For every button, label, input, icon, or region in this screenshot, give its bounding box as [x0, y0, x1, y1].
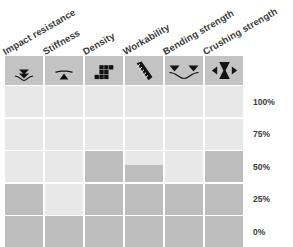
- axis-tick-50pct: 50%: [253, 163, 270, 172]
- cell-fill: [85, 184, 123, 215]
- grid-cell: [5, 151, 43, 182]
- cell-fill: [5, 216, 43, 247]
- grid-cell: [125, 119, 163, 150]
- axis-tick-100pct: 100%: [253, 98, 275, 107]
- grid-cell: [205, 119, 243, 150]
- grid-cell: [85, 119, 123, 150]
- icon-cell-impact-resistance: [5, 56, 43, 85]
- grid-cell: [5, 86, 43, 117]
- grid-cell: [165, 151, 203, 182]
- compression-hourglass-icon: [211, 60, 238, 81]
- beam-fulcrum-icon: [54, 59, 74, 82]
- grid-cell: [85, 151, 123, 182]
- cell-fill: [125, 184, 163, 215]
- axis-tick-75pct: 75%: [253, 130, 270, 139]
- grid-cell: [5, 216, 43, 247]
- grid-cell: [85, 86, 123, 117]
- grid-cell: [45, 119, 83, 150]
- grid-column-density: [85, 86, 123, 246]
- axis-tick-25pct: 25%: [253, 195, 270, 204]
- stacked-blocks-icon: [94, 60, 115, 81]
- grid-cell: [85, 216, 123, 247]
- cell-fill: [165, 216, 203, 247]
- cell-fill: [205, 216, 243, 247]
- cell-fill: [45, 216, 83, 247]
- grid-column-impact-resistance: [5, 86, 43, 246]
- column-header-impact-resistance: Impact resistance: [1, 7, 77, 56]
- grid-cell: [205, 184, 243, 215]
- grid-cell: [125, 86, 163, 117]
- grid-cell: [205, 86, 243, 117]
- grid-cell: [5, 119, 43, 150]
- grid-cell: [125, 184, 163, 215]
- icon-cell-crushing-strength: [205, 56, 243, 85]
- icon-cell-bending-strength: [165, 56, 203, 85]
- column-header-density: Density: [81, 30, 116, 56]
- file-tool-icon: [133, 60, 155, 82]
- grid-cell: [45, 86, 83, 117]
- y-axis-labels: 100%75%50%25%0%: [248, 86, 293, 247]
- icon-cell-density: [85, 56, 123, 85]
- grid-cell: [125, 216, 163, 247]
- bending-load-icon: [168, 60, 200, 82]
- grid-cell: [165, 86, 203, 117]
- grid-column-bending-strength: [165, 86, 203, 246]
- cell-fill: [85, 216, 123, 247]
- column-header-bending-strength: Bending strength: [161, 8, 235, 56]
- grid-cell: [165, 184, 203, 215]
- cell-fill: [5, 184, 43, 215]
- grid-cell: [205, 216, 243, 247]
- icon-cell-stiffness: [45, 56, 83, 85]
- icon-cell-workability: [125, 56, 163, 85]
- grid-column-crushing-strength: [205, 86, 243, 246]
- grid-cell: [205, 151, 243, 182]
- grid-cell: [165, 119, 203, 150]
- axis-tick-0pct: 0%: [253, 228, 265, 237]
- grid-column-workability: [125, 86, 163, 246]
- grid-cell: [45, 216, 83, 247]
- cell-fill: [125, 165, 163, 182]
- cell-fill: [125, 216, 163, 247]
- grid-cell: [45, 184, 83, 215]
- grid-cell: [45, 151, 83, 182]
- grid-column-stiffness: [45, 86, 83, 246]
- grid-cell: [165, 216, 203, 247]
- column-header-crushing-strength: Crushing strength: [201, 6, 279, 56]
- cell-fill: [205, 151, 243, 182]
- column-icon-band: [0, 56, 293, 85]
- material-property-chart: Impact resistanceStiffnessDensityWorkabi…: [0, 0, 293, 247]
- column-header-labels: Impact resistanceStiffnessDensityWorkabi…: [0, 0, 293, 56]
- impact-arrows-icon: [14, 59, 34, 82]
- grid-cell: [85, 184, 123, 215]
- cell-fill: [165, 184, 203, 215]
- cell-fill: [85, 151, 123, 182]
- cell-fill: [205, 184, 243, 215]
- grid-cell: [125, 151, 163, 182]
- grid-cell: [5, 184, 43, 215]
